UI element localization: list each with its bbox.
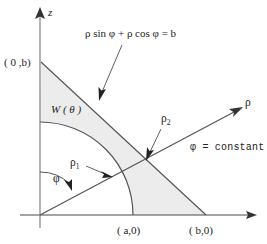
rho2-group: ρ2 xyxy=(146,112,171,161)
shaded-region-group xyxy=(40,62,205,215)
rho1-group: ρ1 xyxy=(70,156,113,178)
rho1-arrowhead xyxy=(101,171,113,178)
z-axis-label: z xyxy=(47,6,53,18)
point-a0-label: ( a,0) xyxy=(117,224,141,237)
phi-constant-label: φ = constant xyxy=(190,142,264,153)
rho2-leader xyxy=(150,129,161,152)
rho1-leader xyxy=(86,166,105,174)
line-equation-leader xyxy=(102,45,122,92)
line-equation-label: ρ sin φ + ρ cos φ = b xyxy=(85,27,177,39)
point-0b-label: ( 0 ,b) xyxy=(4,56,31,69)
figure-canvas: z ρ φ ρ sin φ + ρ cos φ = b W ( θ ) ( 0 … xyxy=(0,0,267,244)
polar-region-diagram: z ρ φ ρ sin φ + ρ cos φ = b W ( θ ) ( 0 … xyxy=(0,0,267,244)
constraint-line xyxy=(41,62,206,215)
shaded-region-main xyxy=(40,62,205,215)
phi-angle-arrowhead xyxy=(64,179,72,191)
rho1-label: ρ1 xyxy=(70,156,80,171)
rho2-subscript: 2 xyxy=(167,118,171,127)
line-equation-arrowhead xyxy=(99,87,107,101)
rho2-arrowhead xyxy=(146,147,154,161)
phi-angle-group: φ xyxy=(40,172,72,191)
point-b0-label: ( b,0) xyxy=(189,224,213,237)
rho2-label: ρ2 xyxy=(161,112,171,127)
rho1-subscript: 1 xyxy=(76,162,80,171)
phi-angle-label: φ xyxy=(53,172,60,185)
region-label: W ( θ ) xyxy=(51,103,81,116)
rho-ray-arrowhead xyxy=(229,107,243,117)
line-equation-group: ρ sin φ + ρ cos φ = b xyxy=(85,27,177,101)
rho-axis-label: ρ xyxy=(245,96,251,109)
